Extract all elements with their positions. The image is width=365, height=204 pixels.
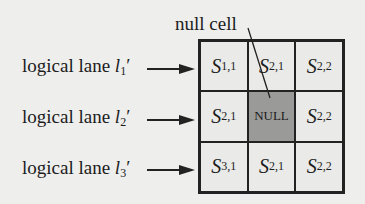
grid-cell: S2,2 [295,142,343,192]
cell-symbol: S [211,105,221,128]
cell-symbol: S [259,55,269,78]
lane-prime: ′ [126,157,130,178]
grid-cell: S2,2 [295,91,343,141]
cell-subscript: 2,2 [317,109,332,124]
cell-symbol: S [307,55,317,78]
lane-label-3: logical lane l3′ [22,158,130,179]
grid-cell: S3,1 [200,142,248,192]
cell-subscript: 2,1 [269,159,284,174]
cell-symbol: S [259,155,269,178]
lane-prime: ′ [126,55,130,76]
grid-cell: S2,1 [248,41,296,91]
lane-grid: S1,1S2,1S2,2S2,1NULLS2,2S3,1S2,1S2,2 [198,39,345,194]
cell-symbol: S [307,155,317,178]
cell-subscript: 3,1 [221,159,236,174]
cell-symbol: S [211,155,221,178]
lane-label-text: logical lane [22,157,115,178]
cell-subscript: 2,2 [317,59,332,74]
grid-cell: S1,1 [200,41,248,91]
grid-cell: S2,2 [295,41,343,91]
arrow-lane-3 [147,164,195,176]
lane-prime: ′ [126,106,130,127]
cell-subscript: 1,1 [221,59,236,74]
grid-cell: S2,1 [248,142,296,192]
lane-label-2: logical lane l2′ [22,107,130,128]
null-cell-label: null cell [175,14,237,33]
cell-subscript: 2,2 [317,159,332,174]
lane-label-text: logical lane [22,106,115,127]
null-cell: NULL [248,91,296,141]
grid-cell: S2,1 [200,91,248,141]
cell-symbol: S [307,105,317,128]
arrow-lane-2 [147,114,195,126]
lane-label-text: logical lane [22,55,115,76]
cell-subscript: 2,1 [221,109,236,124]
arrow-lane-1 [147,63,195,75]
lane-label-1: logical lane l1′ [22,56,130,77]
cell-symbol: S [211,55,221,78]
cell-subscript: 2,1 [269,59,284,74]
